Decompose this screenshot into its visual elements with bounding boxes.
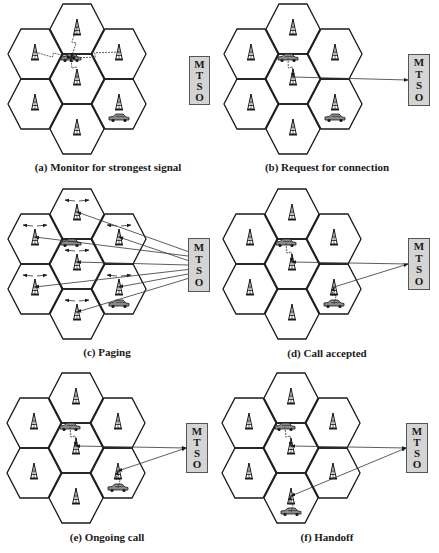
mtso-letter: O [193, 459, 202, 470]
tower-icon [329, 413, 337, 430]
wired-link [334, 264, 408, 287]
tower-icon [115, 94, 123, 111]
tower-icon [287, 388, 295, 405]
car-icon [325, 114, 345, 122]
panel-b [224, 4, 408, 154]
tower-icon [288, 304, 296, 321]
bidirectional-link [118, 448, 186, 471]
mtso-letter: M [414, 57, 424, 68]
mtso-letter: O [415, 92, 424, 103]
panel-caption: (a) Monitor for strongest signal [35, 161, 182, 173]
broadcast-arrows-icon [107, 275, 131, 276]
wired-link [77, 212, 188, 252]
link-arrows [285, 427, 406, 512]
broadcast-arrows-icon [65, 300, 89, 301]
mtso-box: MTSO [189, 56, 210, 105]
car-icon [109, 114, 129, 122]
panel-caption: (e) Ongoing call [70, 531, 145, 543]
panel-c [8, 189, 188, 339]
link-arrows [286, 243, 408, 304]
panel-caption: (b) Request for connection [265, 161, 389, 173]
tower-icon [73, 304, 81, 321]
tower-icon [114, 413, 122, 430]
car-icon [324, 300, 344, 308]
mtso-box: MTSO [408, 238, 430, 290]
wired-link [292, 262, 408, 264]
mtso-letter: T [415, 253, 422, 264]
tower-icon [73, 69, 81, 86]
mtso-letter: O [195, 277, 204, 288]
tower-icon [30, 413, 38, 430]
tower-icon [288, 204, 296, 221]
mtso-letter: S [416, 80, 422, 91]
tower-icon [245, 463, 253, 480]
broadcast-arrows-icon [23, 225, 47, 226]
panel-a [8, 4, 146, 154]
tower-icon [330, 229, 338, 246]
mtso-letter: T [415, 69, 422, 80]
tower-icon [331, 94, 339, 111]
panel-caption: (c) Paging [83, 346, 130, 358]
tower-icon [246, 279, 254, 296]
panel-e [7, 373, 186, 523]
tower-icon [246, 229, 254, 246]
broadcast-arrows-icon [107, 225, 131, 226]
broadcast-arrows-icon [65, 200, 89, 201]
broadcast-arrows-icon [65, 250, 89, 251]
tower-icon [115, 279, 123, 296]
tower-icon [247, 44, 255, 61]
panel-d [223, 189, 408, 339]
mtso-box: MTSO [188, 238, 210, 292]
mtso-box: MTSO [186, 423, 208, 473]
panel-caption: (d) Call accepted [287, 347, 366, 359]
broadcast-arrows-icon [23, 275, 47, 276]
cellular-call-setup-diagram [0, 0, 439, 553]
tower-icon [287, 488, 295, 505]
mtso-letter: O [415, 276, 424, 287]
tower-icon [31, 279, 39, 296]
mtso-letter: S [416, 264, 422, 275]
car-icon [108, 484, 128, 492]
link-arrows [70, 427, 186, 488]
mtso-letter: M [414, 241, 424, 252]
tower-icon [289, 119, 297, 136]
tower-icon [73, 119, 81, 136]
mtso-letter: O [413, 459, 422, 470]
tower-icon [72, 488, 80, 505]
tower-icon [331, 44, 339, 61]
mtso-letter: M [194, 242, 204, 253]
tower-icon [31, 94, 39, 111]
mtso-box: MTSO [408, 54, 430, 106]
tower-icon [30, 463, 38, 480]
mtso-letter: T [195, 254, 202, 265]
car-icon [281, 508, 301, 516]
panel-f [222, 373, 406, 523]
bidirectional-link [291, 448, 406, 496]
mtso-box: MTSO [406, 423, 428, 473]
tower-icon [72, 388, 80, 405]
panel-caption: (f) Handoff [301, 531, 354, 543]
mtso-letter: S [196, 265, 202, 276]
tower-icon [245, 413, 253, 430]
tower-icon [289, 19, 297, 36]
link-arrows [288, 58, 408, 80]
tower-icon [247, 94, 255, 111]
mtso-letter: O [195, 92, 204, 103]
